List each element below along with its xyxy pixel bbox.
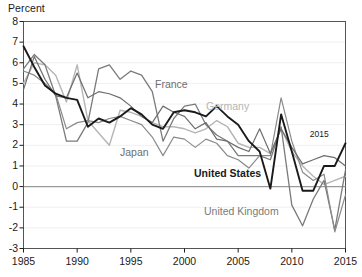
y-axis-tick-label: -3 — [0, 242, 18, 254]
y-axis-tick-label: -2 — [0, 221, 18, 233]
x-axis-tick-label: 1985 — [4, 255, 44, 267]
x-axis-tick-label: 2000 — [165, 255, 205, 267]
series-line-japan — [24, 71, 346, 232]
series-line-france — [24, 57, 346, 166]
annotation-2015: 2015 — [310, 129, 329, 139]
y-axis-tick-label: 1 — [0, 159, 18, 171]
series-label-united-kingdom: United Kingdom — [204, 205, 279, 217]
x-axis-tick-label: 2010 — [272, 255, 312, 267]
series-label-germany: Germany — [206, 100, 249, 112]
x-axis-tick-label: 2005 — [218, 255, 258, 267]
y-axis-tick-label: 8 — [0, 15, 18, 27]
y-axis-tick-label: -1 — [0, 200, 18, 212]
y-axis-tick-label: 7 — [0, 35, 18, 47]
x-axis-tick-label: 1995 — [111, 255, 151, 267]
series-label-united-states: United States — [194, 167, 261, 179]
y-axis-tick-label: 2 — [0, 138, 18, 150]
x-axis-tick-label: 2015 — [326, 255, 362, 267]
y-axis-tick-label: 6 — [0, 56, 18, 68]
y-axis-unit-label: Percent — [8, 2, 45, 14]
x-axis-tick-label: 1990 — [57, 255, 97, 267]
series-line-united-states — [24, 46, 346, 190]
y-axis-tick-label: 5 — [0, 76, 18, 88]
y-axis-tick-label: 0 — [0, 180, 18, 192]
y-axis-tick-label: 4 — [0, 97, 18, 109]
series-label-japan: Japan — [120, 146, 149, 158]
series-label-france: France — [155, 78, 188, 90]
y-axis-tick-label: 3 — [0, 118, 18, 130]
